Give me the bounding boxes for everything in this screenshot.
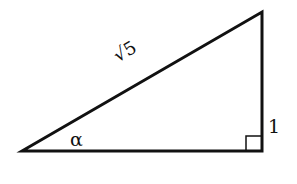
triangle-figure [0, 0, 297, 184]
triangle-shape [22, 12, 262, 151]
angle-label: α [70, 128, 83, 150]
opposite-side-label: 1 [268, 115, 280, 137]
right-angle-marker [246, 136, 262, 151]
triangle-diagram: √5 1 α [0, 0, 297, 184]
